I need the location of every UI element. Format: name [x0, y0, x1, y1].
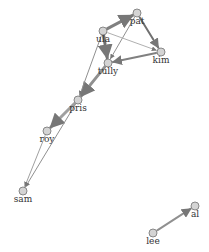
- node-label: roy: [40, 134, 56, 144]
- edge-lee-al: [157, 209, 191, 231]
- node-kim[interactable]: kim: [153, 48, 170, 65]
- edge-pris-sam: [26, 104, 76, 186]
- node-label: kim: [153, 55, 170, 65]
- node-label: pat: [130, 16, 145, 26]
- node-label: tully: [98, 66, 119, 76]
- node-pat[interactable]: pat: [130, 9, 145, 26]
- node-roy[interactable]: roy: [40, 127, 56, 144]
- node-al[interactable]: al: [191, 202, 199, 219]
- edges-layer: [25, 15, 191, 230]
- edge-kim-tully: [113, 53, 156, 62]
- edge-ula-kim: [108, 33, 157, 51]
- network-graph: patulakimtullyprisroysamleeal: [0, 0, 209, 252]
- node-sam[interactable]: sam: [14, 187, 33, 204]
- node-pris[interactable]: pris: [69, 96, 87, 113]
- node-label: pris: [69, 103, 87, 113]
- node-label: lee: [146, 236, 160, 246]
- node-label: sam: [14, 194, 33, 204]
- node-lee[interactable]: lee: [146, 229, 160, 246]
- node-label: al: [191, 209, 199, 219]
- node-label: ula: [96, 34, 111, 44]
